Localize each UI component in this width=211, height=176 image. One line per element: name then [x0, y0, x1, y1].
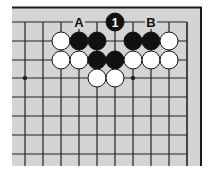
black-stone: [88, 32, 106, 50]
go-board: 1 AB: [0, 0, 211, 176]
white-stone: [88, 69, 106, 87]
white-stone: [52, 51, 70, 69]
black-stone: [106, 51, 124, 69]
white-stone: [160, 51, 178, 69]
point-label-a: A: [74, 15, 84, 30]
board-background: [12, 7, 201, 166]
point-label-b: B: [146, 15, 155, 30]
white-stone: [52, 32, 70, 50]
black-stone: [124, 32, 142, 50]
black-stone: [70, 32, 88, 50]
white-stone: [142, 51, 160, 69]
star-point: [131, 76, 135, 80]
white-stone: [106, 69, 124, 87]
star-point: [23, 76, 27, 80]
move-number-label: 1: [112, 16, 119, 30]
white-stone: [160, 32, 178, 50]
white-stone: [70, 51, 88, 69]
white-stone: [124, 51, 142, 69]
black-stone: [142, 32, 160, 50]
black-stone: [88, 51, 106, 69]
